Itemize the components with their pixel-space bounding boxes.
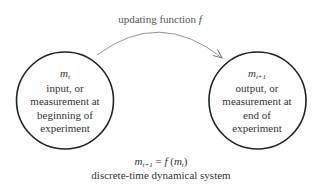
node-left-variable: mt	[17, 67, 113, 81]
node-right-line: experiment	[209, 122, 305, 136]
node-left-line: beginning of	[17, 109, 113, 123]
node-right: mt+1 output, or measurement at end of ex…	[209, 67, 305, 136]
node-left-line: measurement at	[17, 95, 113, 109]
equation-close: )	[184, 155, 188, 167]
node-right-var-sub: t+1	[256, 73, 266, 81]
node-left-line: input, or	[17, 82, 113, 96]
node-left: mt input, or measurement at beginning of…	[17, 67, 113, 136]
diagram-caption: discrete-time dynamical system	[81, 169, 241, 181]
equation: mt+1 = f (mt)	[81, 155, 241, 167]
node-right-line: output, or	[209, 82, 305, 96]
arrow-label: updating function f	[100, 13, 220, 25]
node-right-line: measurement at	[209, 95, 305, 109]
node-left-line: experiment	[17, 122, 113, 136]
equation-lhs-base: m	[135, 155, 143, 167]
equation-arg-base: m	[174, 155, 182, 167]
arrow-label-fn: f	[199, 13, 202, 25]
node-right-variable: mt+1	[209, 67, 305, 81]
node-right-line: end of	[209, 109, 305, 123]
updating-function-arrow	[97, 32, 222, 58]
node-left-var-base: m	[60, 67, 68, 79]
equation-lhs-sub: t+1	[143, 161, 153, 169]
equation-equals: =	[153, 155, 165, 167]
node-right-var-base: m	[248, 67, 256, 79]
node-left-var-sub: t	[68, 73, 70, 81]
arrow-label-text: updating function	[118, 13, 199, 25]
